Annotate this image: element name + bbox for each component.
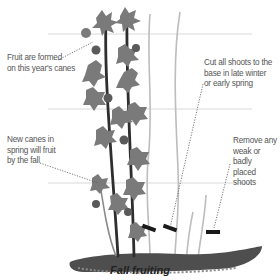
annotation-line: weak or badly bbox=[233, 147, 280, 168]
annotation-line: New canes in bbox=[7, 135, 55, 146]
fall-fruiting-diagram: Fruit are formed on this year's canes Ne… bbox=[0, 0, 280, 280]
annotation-line: spring will fruit bbox=[7, 146, 55, 157]
leaves bbox=[81, 7, 150, 242]
annotation-line: Cut all shoots to the bbox=[204, 58, 272, 69]
annotation-line: Fruit are formed bbox=[7, 53, 75, 64]
annotation-fruit-formed: Fruit are formed on this year's canes bbox=[7, 53, 75, 74]
annotation-line: base in late winter bbox=[204, 69, 272, 80]
annotation-line: on this year's canes bbox=[7, 64, 75, 75]
annotation-remove-weak: Remove any weak or badly placed shoots bbox=[233, 136, 280, 189]
annotation-line: placed shoots bbox=[233, 168, 280, 189]
annotation-cut-shoots: Cut all shoots to the base in late winte… bbox=[204, 58, 272, 90]
annotation-line: Remove any bbox=[233, 136, 280, 147]
cut-markers bbox=[142, 224, 220, 234]
annotation-line: or early spring bbox=[204, 79, 272, 90]
annotation-line: by the fall bbox=[7, 156, 55, 167]
diagram-caption: Fall fruiting bbox=[0, 264, 280, 276]
annotation-new-canes: New canes in spring will fruit by the fa… bbox=[7, 135, 55, 167]
cut-canes bbox=[147, 12, 206, 262]
